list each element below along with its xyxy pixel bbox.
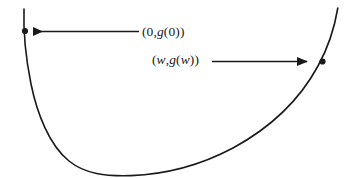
right-endpoint-dot: [319, 58, 325, 64]
left-endpoint-dot: [22, 28, 28, 34]
figure-canvas: (0,g(0)) (w,g(w)): [0, 0, 351, 178]
label-left-endpoint: (0,g(0)): [142, 24, 185, 40]
label-left-endpoint-text: (0,g(0)): [142, 24, 185, 39]
label-right-endpoint-text: (w,g(w)): [152, 52, 199, 67]
label-right-endpoint: (w,g(w)): [152, 52, 199, 68]
